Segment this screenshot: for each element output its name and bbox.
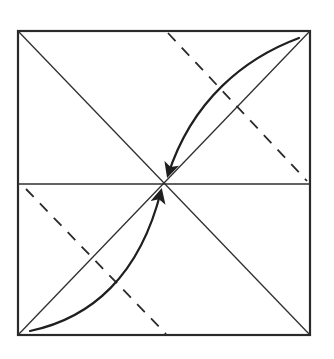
- origami-diagram: Square paper with both diagonals and a h…: [0, 0, 334, 359]
- diagram-canvas: [0, 0, 334, 359]
